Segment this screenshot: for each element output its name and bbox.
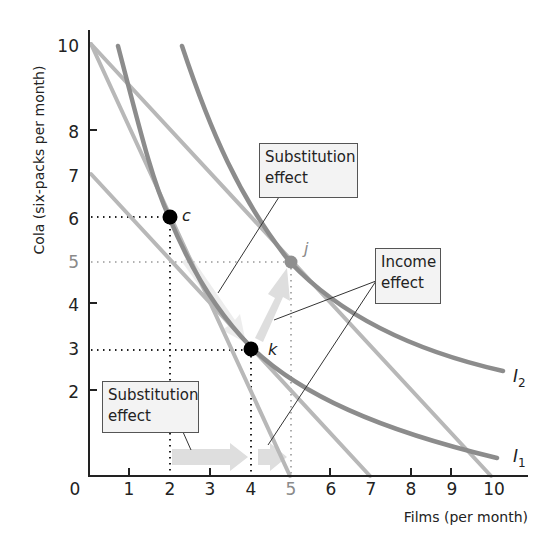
x-label-0: 0: [70, 479, 81, 499]
x-tick-labels: 0 1 2 3 4 5 6 7 8 9 10: [70, 479, 505, 499]
y-label-4: 4: [68, 295, 79, 315]
y-label-10: 10: [57, 36, 79, 56]
point-j: [285, 256, 298, 269]
label-i1: I1: [513, 446, 526, 470]
callout-substitution-bottom: Substitution effect: [102, 381, 199, 433]
point-c: [163, 210, 178, 225]
x-axis-title: Films (per month): [404, 509, 528, 525]
chart: c k j I2 I1 10 8 7 6 5 4 3 2 0 1 2 3 4 5…: [0, 0, 557, 553]
label-i1-sub: 1: [518, 456, 526, 470]
leader-income-lower: [268, 281, 376, 445]
y-axis-title: Cola (six-packs per month): [31, 66, 47, 255]
x-label-9: 9: [447, 479, 458, 499]
leader-lines: [183, 197, 376, 450]
y-label-2: 2: [68, 382, 79, 402]
substitution-arrow: [172, 443, 248, 471]
y-label-6: 6: [68, 209, 79, 229]
x-label-7: 7: [366, 479, 377, 499]
x-label-4: 4: [246, 479, 257, 499]
x-label-1: 1: [124, 479, 135, 499]
y-label-3: 3: [68, 339, 79, 359]
label-i2-sub: 2: [518, 376, 526, 390]
label-c: c: [182, 206, 191, 225]
label-i2: I2: [513, 366, 526, 390]
x-label-5: 5: [286, 479, 297, 499]
leader-substitution-bottom: [183, 432, 191, 450]
callout-income: Income effect: [375, 248, 441, 304]
point-k: [244, 342, 259, 357]
guide-lines: [91, 217, 291, 476]
callout-substitution-top: Substitution effect: [259, 143, 358, 198]
x-label-8: 8: [406, 479, 417, 499]
x-label-10: 10: [483, 479, 505, 499]
y-label-7: 7: [68, 166, 79, 186]
y-tick-labels: 10 8 7 6 5 4 3 2: [57, 36, 79, 402]
x-label-3: 3: [205, 479, 216, 499]
label-j: j: [302, 239, 309, 258]
x-label-6: 6: [326, 479, 337, 499]
label-k: k: [268, 340, 278, 359]
x-label-2: 2: [165, 479, 176, 499]
y-label-5: 5: [68, 252, 79, 272]
y-label-8: 8: [68, 122, 79, 142]
income-arrow-diagonal: [255, 268, 290, 342]
